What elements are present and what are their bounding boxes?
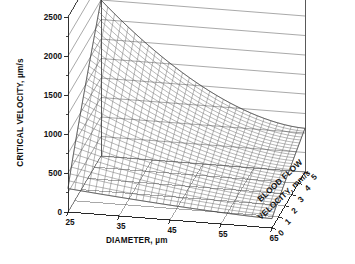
svg-text:2500: 2500: [44, 13, 63, 22]
svg-text:25: 25: [65, 218, 75, 227]
svg-text:0: 0: [57, 208, 62, 217]
svg-text:1500: 1500: [44, 91, 63, 100]
svg-text:2: 2: [290, 206, 300, 216]
svg-text:55: 55: [218, 230, 228, 239]
x-axis-label: DIAMETER, µm: [106, 236, 168, 245]
svg-text:45: 45: [167, 226, 177, 235]
svg-text:1000: 1000: [44, 130, 63, 139]
svg-text:35: 35: [116, 222, 126, 231]
svg-text:65: 65: [269, 234, 279, 243]
svg-text:4: 4: [303, 183, 313, 193]
svg-text:1: 1: [283, 217, 293, 227]
svg-text:3: 3: [296, 194, 306, 204]
figure-3d-surface-plot: 050010001500200025002535455565012345 CRI…: [0, 0, 355, 264]
svg-text:2000: 2000: [44, 52, 63, 61]
z-axis-label: CRITICAL VELOCITY, µm/s: [16, 52, 25, 174]
surface-plot-canvas: 050010001500200025002535455565012345: [0, 0, 355, 264]
svg-text:500: 500: [48, 169, 62, 178]
